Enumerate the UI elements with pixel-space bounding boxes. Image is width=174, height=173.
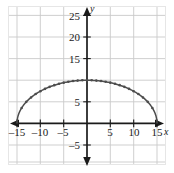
y-tick-label-25: 25 (60, 11, 80, 22)
data-point (53, 84, 56, 87)
data-point (109, 81, 112, 84)
data-point (114, 82, 117, 85)
data-point (34, 93, 37, 96)
data-point (100, 80, 103, 83)
data-point (128, 88, 131, 91)
x-tick-label-minus-5: –5 (54, 127, 72, 138)
data-point (30, 96, 33, 99)
data-point (76, 79, 79, 82)
data-point (39, 90, 42, 93)
data-point (146, 101, 149, 104)
data-point (20, 107, 23, 110)
x-axis-name: x (164, 127, 168, 137)
data-point (118, 84, 121, 87)
coordinate-plane (0, 0, 174, 173)
x-tick-label-5: 5 (103, 127, 117, 138)
data-point (48, 86, 51, 89)
graph-figure: 25 20 15 5 –5 –15 –10 –5 5 10 15 y x (0, 0, 174, 173)
data-point (67, 80, 70, 83)
y-tick-label-5: 5 (64, 97, 80, 108)
data-point (90, 79, 93, 82)
data-point (81, 79, 84, 82)
data-point (123, 86, 126, 89)
data-point (44, 88, 47, 91)
y-tick-label-20: 20 (60, 32, 80, 43)
data-point (137, 93, 140, 96)
data-point (58, 82, 61, 85)
data-point (132, 90, 135, 93)
y-tick-label-15: 15 (60, 54, 80, 65)
data-point (62, 81, 65, 84)
data-point (142, 96, 145, 99)
x-tick-label-minus-15: –15 (6, 127, 28, 138)
data-point (25, 101, 28, 104)
data-point (104, 80, 107, 83)
data-point (86, 79, 89, 82)
x-tick-label-10: 10 (125, 127, 143, 138)
y-tick-label-minus-5: –5 (60, 140, 80, 151)
y-axis-name: y (90, 4, 94, 14)
data-point (72, 80, 75, 83)
data-point (151, 107, 154, 110)
x-tick-label-minus-10: –10 (29, 127, 51, 138)
data-point (95, 79, 98, 82)
